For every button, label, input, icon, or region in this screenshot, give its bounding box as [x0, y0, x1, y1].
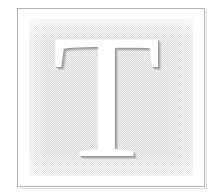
textured-panel — [29, 19, 193, 176]
dropcap-graphic: T — [0, 0, 211, 196]
